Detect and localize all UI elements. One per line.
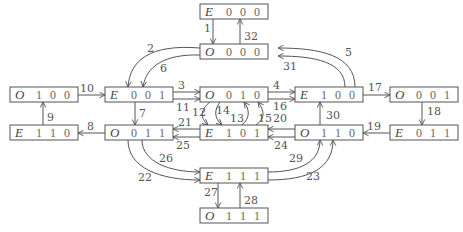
edge-label-17: 17 [368,81,382,94]
bit-value: 0 [226,88,232,102]
bit-value: 1 [254,209,260,223]
bit-value: 1 [36,126,42,140]
edge-label-25: 25 [176,139,190,152]
state-transition-diagram: 1 2 3 4 5 6 7 8 9 10 11 12 13 14 15 16 1… [0,0,463,232]
bit-value: 0 [240,45,246,59]
state-node-O111: O111 [200,208,268,223]
bit-value: 0 [131,126,137,140]
edge-label-8: 8 [87,120,94,133]
state-node-E001: E001 [105,87,173,102]
state-node-O001: O001 [390,87,458,102]
bit-value: 0 [131,88,137,102]
edge-label-32: 32 [244,30,258,43]
edge-label-3: 3 [178,79,185,92]
bit-value: 1 [226,126,232,140]
bit-value: 0 [349,88,355,102]
bit-value: 0 [254,5,260,19]
bit-value: 1 [226,209,232,223]
edge-label-1: 1 [204,22,211,35]
parity-label: O [300,125,310,140]
parity-label: O [15,87,25,102]
bit-value: 1 [321,88,327,102]
parity-label: E [204,125,213,140]
state-node-O010: O010 [200,87,268,102]
parity-label: E [204,4,213,19]
bit-value: 1 [226,169,232,183]
edge-label-21: 21 [178,116,192,129]
edge-label-18: 18 [427,105,441,118]
bit-value: 0 [226,5,232,19]
state-node-E110: E110 [10,125,78,140]
bit-value: 1 [321,126,327,140]
bit-value: 1 [240,169,246,183]
bit-value: 1 [430,126,436,140]
state-node-E000: E000 [200,4,268,19]
state-node-E100: E100 [295,87,363,102]
parity-label: O [205,44,215,59]
bit-value: 0 [416,126,422,140]
parity-label: O [110,125,120,140]
edge-label-11: 11 [176,101,190,114]
edge-label-26: 26 [159,152,173,165]
bit-value: 0 [254,45,260,59]
bit-value: 1 [50,126,56,140]
edge-6 [143,55,200,87]
edge-label-7: 7 [139,107,146,120]
edge-label-2: 2 [147,42,154,55]
bit-value: 0 [64,126,70,140]
edge-label-4: 4 [273,79,280,92]
edge-label-10: 10 [80,82,94,95]
state-node-O110: O110 [295,125,363,140]
bit-value: 1 [36,88,42,102]
edge-label-31: 31 [283,60,297,73]
edge-label-24: 24 [274,139,288,152]
edge-label-9: 9 [47,111,54,124]
edge-label-13: 13 [230,112,244,125]
state-node-E101: E101 [200,125,268,140]
parity-label: E [394,125,403,140]
bit-value: 0 [240,126,246,140]
bit-value: 0 [349,126,355,140]
bit-value: 1 [240,88,246,102]
parity-label: O [395,87,405,102]
bit-value: 1 [240,209,246,223]
state-node-E111: E111 [200,168,268,183]
bit-value: 0 [254,88,260,102]
bit-value: 0 [430,88,436,102]
parity-label: E [299,87,308,102]
bit-value: 0 [240,5,246,19]
edge-label-12: 12 [192,106,206,119]
state-node-O100: O100 [10,87,78,102]
edge-label-22: 22 [138,171,152,184]
edge-label-15: 15 [258,112,272,125]
parity-label: E [109,87,118,102]
bit-value: 0 [145,88,151,102]
bit-value: 1 [159,126,165,140]
parity-label: O [205,87,215,102]
edge-label-20: 20 [273,112,287,125]
parity-label: E [204,168,213,183]
parity-label: O [205,208,215,223]
edge-label-30: 30 [326,109,340,122]
edge-label-5: 5 [345,46,352,59]
state-node-E011: E011 [390,125,458,140]
bit-value: 0 [416,88,422,102]
bit-value: 1 [444,126,450,140]
bit-value: 1 [254,126,260,140]
state-node-O011: O011 [105,125,173,140]
bit-value: 1 [254,169,260,183]
edge-label-27: 27 [204,186,218,199]
bit-value: 0 [335,88,341,102]
bit-value: 1 [159,88,165,102]
edge-label-23: 23 [306,170,320,183]
edge-label-14: 14 [216,104,230,117]
parity-label: E [14,125,23,140]
edge-label-29: 29 [289,152,303,165]
bit-value: 0 [64,88,70,102]
bit-value: 1 [335,126,341,140]
bit-value: 0 [226,45,232,59]
edge-label-19: 19 [367,120,381,133]
edge-label-6: 6 [160,62,167,75]
edge-label-28: 28 [244,194,258,207]
bit-value: 1 [145,126,151,140]
